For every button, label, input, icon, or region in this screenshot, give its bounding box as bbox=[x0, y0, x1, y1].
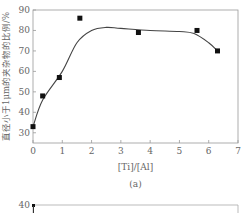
y-tick-label: 30 bbox=[19, 128, 31, 138]
x-tick-label: 5 bbox=[177, 146, 183, 156]
chart-svg: 0123456730405060708090[Ti]/[Al]直径小于1μm的夹… bbox=[0, 0, 244, 213]
y-tick-label: 40 bbox=[19, 107, 31, 117]
x-tick-label: 2 bbox=[89, 146, 95, 156]
y-tick-label: 60 bbox=[19, 66, 31, 76]
data-point bbox=[215, 48, 220, 53]
x-tick-label: 6 bbox=[206, 146, 212, 156]
x-tick-label: 0 bbox=[30, 146, 36, 156]
panel-b-y-tick-label: 40 bbox=[19, 200, 31, 210]
data-point bbox=[31, 124, 36, 129]
x-tick-label: 4 bbox=[147, 146, 153, 156]
x-tick-label: 3 bbox=[118, 146, 124, 156]
y-tick-label: 70 bbox=[19, 46, 31, 56]
data-point bbox=[136, 30, 141, 35]
data-point bbox=[77, 16, 82, 21]
x-tick-label: 1 bbox=[59, 146, 65, 156]
x-axis-label: [Ti]/[Al] bbox=[118, 162, 153, 172]
y-tick-label: 90 bbox=[19, 5, 31, 15]
data-point bbox=[195, 28, 200, 33]
panel-label: (a) bbox=[129, 179, 141, 189]
y-axis-label: 直径小于1μm的夹杂物的比例/% bbox=[1, 12, 11, 141]
y-tick-label: 80 bbox=[19, 25, 31, 35]
y-tick-label: 50 bbox=[19, 87, 31, 97]
x-tick-label: 7 bbox=[235, 146, 241, 156]
data-point bbox=[40, 93, 45, 98]
data-point bbox=[57, 75, 62, 80]
